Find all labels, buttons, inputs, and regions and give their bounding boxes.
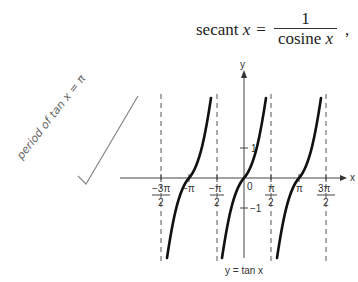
x-tick-negpi2: −π 2 <box>209 183 224 208</box>
x-tick-3pi2: 3π 2 <box>317 183 335 208</box>
x-tick-neg3pi2: −3π 2 <box>152 183 170 208</box>
x-axis-arrow-icon <box>340 175 347 181</box>
checkmark-icon <box>78 96 138 184</box>
tan-graph: period of tan x = π x y 0 1 −1 −3π 2 −π … <box>0 0 358 282</box>
svg-text:π: π <box>268 183 275 194</box>
svg-text:−3π: −3π <box>152 183 170 194</box>
y-axis-arrow-icon <box>241 70 247 78</box>
x-tick-pi: π <box>296 183 303 194</box>
origin-label: 0 <box>247 181 253 192</box>
svg-text:2: 2 <box>323 197 329 208</box>
svg-text:3π: 3π <box>318 183 331 194</box>
svg-text:period of tan x = π: period of tan x = π <box>14 72 89 163</box>
graph-caption: y = tan x <box>225 265 263 276</box>
x-tick-pi2: π 2 <box>265 183 277 208</box>
x-axis-label: x <box>350 172 355 183</box>
svg-text:2: 2 <box>214 197 220 208</box>
svg-text:−π: −π <box>209 183 222 194</box>
handwritten-note: period of tan x = π <box>14 72 89 163</box>
svg-text:2: 2 <box>268 197 274 208</box>
svg-text:2: 2 <box>158 197 164 208</box>
y-axis-label: y <box>240 59 245 70</box>
y-tick-neg1: −1 <box>250 203 262 214</box>
